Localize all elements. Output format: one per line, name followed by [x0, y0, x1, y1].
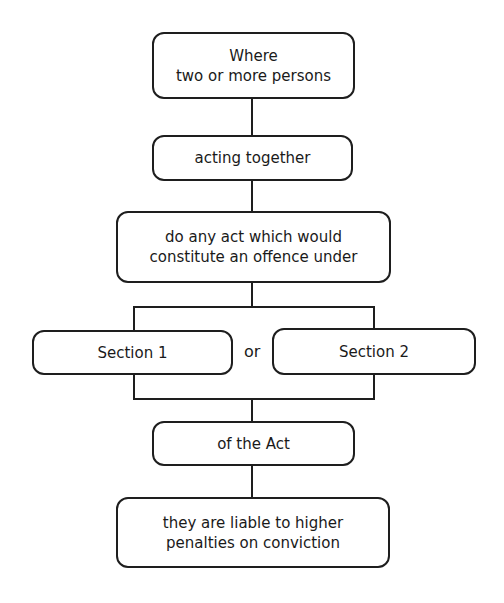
connector-where-acting: [251, 99, 253, 135]
node-of-the-act-text: of the Act: [217, 434, 290, 454]
connector-s1-join: [133, 374, 135, 399]
node-of-the-act: of the Act: [152, 421, 355, 466]
split-bar-top: [133, 306, 375, 308]
node-where: Where two or more persons: [152, 32, 355, 99]
connector-acting-act: [251, 181, 253, 211]
connector-join-ofact: [251, 398, 253, 422]
connector-s2-join: [373, 374, 375, 399]
node-acting-together: acting together: [152, 135, 353, 181]
or-label: or: [244, 342, 260, 361]
connector-split-s1: [133, 306, 135, 332]
node-section-1-text: Section 1: [97, 343, 167, 363]
node-liable: they are liable to higher penalties on c…: [116, 497, 390, 568]
node-liable-line-2: penalties on conviction: [163, 533, 343, 553]
node-section-1: Section 1: [32, 330, 233, 375]
node-where-line-2: two or more persons: [176, 66, 331, 86]
connector-ofact-liable: [251, 466, 253, 498]
node-section-2: Section 2: [272, 328, 476, 375]
node-liable-line-1: they are liable to higher: [163, 513, 343, 533]
node-do-any-act-line-2: constitute an offence under: [150, 247, 358, 267]
node-do-any-act: do any act which would constitute an off…: [116, 211, 391, 283]
node-do-any-act-line-1: do any act which would: [150, 227, 358, 247]
connector-split-s2: [373, 306, 375, 330]
connector-act-split: [251, 283, 253, 307]
node-where-line-1: Where: [176, 46, 331, 66]
join-bar-bottom: [133, 398, 375, 400]
node-section-2-text: Section 2: [339, 342, 409, 362]
node-acting-together-text: acting together: [195, 148, 311, 168]
